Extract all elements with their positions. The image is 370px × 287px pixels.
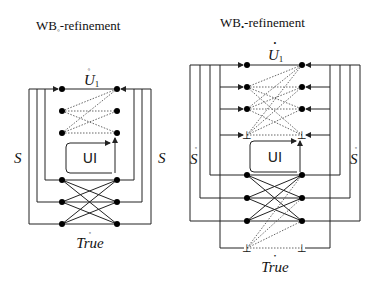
bottom-label: True <box>76 235 104 251</box>
top-label: U1 <box>268 47 283 64</box>
left-title: WB◦-refinement <box>36 18 121 35</box>
left-side-label: S <box>14 150 22 166</box>
right-side-label: S <box>350 151 358 167</box>
top-label: U1 <box>84 72 99 89</box>
bottom-symbol: ⊥ <box>242 129 252 141</box>
diagram-canvas: WB◦-refinement ◦ U1 UI <box>0 0 370 287</box>
right-diagram: WB•-refinement • U1 UI <box>190 15 360 275</box>
bottom-label: True <box>261 259 289 275</box>
ui-box-label: UI <box>83 150 97 166</box>
bottom-symbol: ⊥ <box>297 242 307 254</box>
right-nodes <box>244 62 305 224</box>
bottom-symbol: ⊥ <box>242 242 252 254</box>
right-title: WB•-refinement <box>220 15 305 32</box>
left-diagram: WB◦-refinement ◦ U1 UI <box>14 18 166 251</box>
bottom-symbol: ⊥ <box>297 129 307 141</box>
right-side-label: S <box>158 150 166 166</box>
ui-box-label: UI <box>268 149 282 165</box>
left-side-label: S <box>190 151 198 167</box>
